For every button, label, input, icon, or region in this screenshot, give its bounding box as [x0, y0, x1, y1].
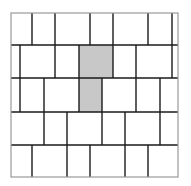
shaded-tile: [79, 45, 113, 78]
shaded-tile: [79, 78, 102, 112]
tiling-diagram: [0, 0, 191, 186]
